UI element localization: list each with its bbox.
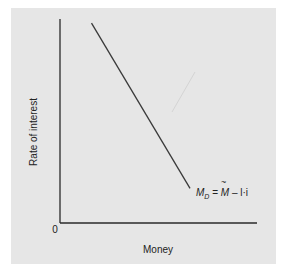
- series-label-eq: =: [209, 187, 220, 198]
- series-label: MD = M – l·i: [196, 187, 248, 200]
- y-axis-label: Rate of interest: [28, 98, 39, 166]
- series-label-rest: – l·i: [229, 187, 248, 198]
- money-demand-chart: 0 Money Rate of interest MD = M – l·i ~: [0, 0, 283, 273]
- scan-artifact: [172, 72, 195, 112]
- tilde-mark: ~: [221, 177, 226, 187]
- x-axis-label: Money: [143, 244, 173, 255]
- origin-label: 0: [52, 224, 58, 235]
